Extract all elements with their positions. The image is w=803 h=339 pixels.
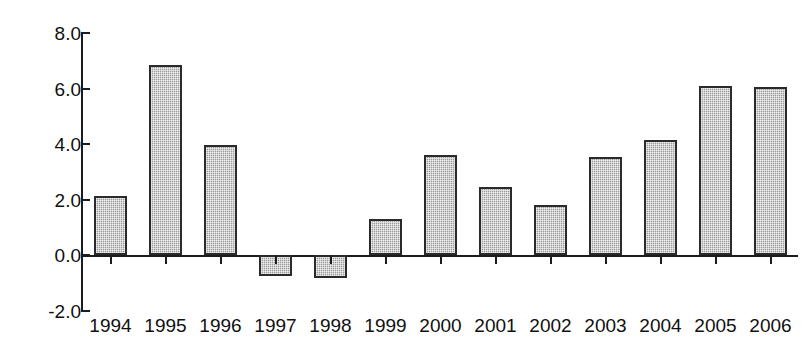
bar [424,155,457,255]
x-axis-tick-label: 2002 [523,315,578,337]
x-axis-tick-label: 1997 [248,315,303,337]
x-axis-tick-label: 2005 [688,315,743,337]
y-axis-tick-label: 6.0 [9,79,81,101]
x-axis-tick-label: 1998 [303,315,358,337]
bar [754,87,787,255]
bar [589,157,622,256]
x-axis-tick-mark [165,255,167,264]
y-axis-tick-label: 4.0 [9,134,81,156]
x-axis-tick-mark [440,255,442,264]
y-axis-tick-label: -2.0 [9,301,81,323]
x-axis-tick-mark [605,255,607,264]
x-axis-tick-mark [385,255,387,264]
bar [369,219,402,255]
y-axis-tick-label: 8.0 [9,23,81,45]
bar [644,140,677,255]
bar [479,187,512,255]
y-axis-tick-label: 2.0 [9,190,81,212]
bar [534,205,567,255]
x-axis-tick-mark [330,255,332,264]
x-axis-tick-mark [275,255,277,264]
x-axis-tick-label: 2000 [413,315,468,337]
x-axis-tick-label: 2004 [633,315,688,337]
y-axis-tick-label: 0.0 [9,245,81,267]
x-axis-tick-mark [660,255,662,264]
x-axis-tick-label: 2001 [468,315,523,337]
bar-chart: 8.06.04.02.00.0-2.0 19941995199619971998… [0,0,803,339]
x-axis-tick-label: 2006 [743,315,798,337]
x-axis-tick-label: 1996 [193,315,248,337]
x-axis-tick-label: 2003 [578,315,633,337]
x-axis-tick-label: 1999 [358,315,413,337]
x-axis-tick-mark [770,255,772,264]
x-axis-tick-mark [550,255,552,264]
x-axis-tick-mark [110,255,112,264]
x-axis-tick-label: 1994 [83,315,138,337]
x-axis-tick-mark [495,255,497,264]
bar [94,196,127,256]
x-axis-tick-mark [715,255,717,264]
x-axis-tick-mark [220,255,222,264]
bar [204,145,237,255]
bar [699,86,732,256]
bar [149,65,182,255]
x-axis-tick-label: 1995 [138,315,193,337]
plot-area: 1994199519961997199819992000200120022003… [83,33,798,311]
